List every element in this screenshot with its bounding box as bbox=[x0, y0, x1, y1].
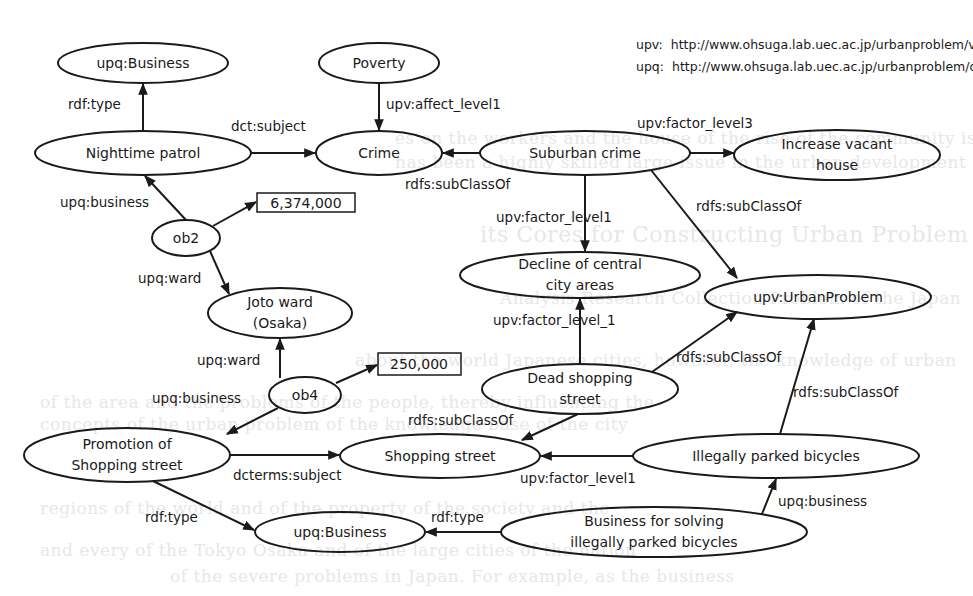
edge-label-solving-business: upq:business bbox=[778, 493, 867, 509]
namespace-upq: upq: http://www.ohsuga.lab.uec.ac.jp/urb… bbox=[636, 59, 973, 74]
label-line: Shopping street bbox=[71, 455, 182, 476]
edge-label-suburban-factor3: upv:factor_level3 bbox=[637, 115, 753, 131]
edge-label-suburban-subclass-up: rdfs:subClassOf bbox=[696, 198, 801, 214]
edge-label-dead-subclass-up: rdfs:subClassOf bbox=[676, 349, 781, 365]
edge-dead-shopping bbox=[522, 414, 578, 440]
edge-ob2-value bbox=[213, 202, 256, 226]
label-line: Business for solving bbox=[570, 511, 737, 532]
label-nighttime-patrol: Nighttime patrol bbox=[86, 143, 201, 164]
edge-label-ob4-business: upq:business bbox=[152, 390, 241, 406]
label-poverty: Poverty bbox=[353, 53, 406, 74]
edge-label-ob2-ward: upq:ward bbox=[138, 270, 201, 286]
edge-label-ob4-ward: upq:ward bbox=[197, 352, 260, 368]
label-line: illegally parked bicycles bbox=[570, 532, 737, 553]
namespace-prefix: upv: bbox=[636, 37, 663, 52]
edge-label-dead-subclass-shopping: rdfs:subClassOf bbox=[408, 412, 513, 428]
edge-label-np-type: rdf:type bbox=[68, 96, 121, 112]
label-line: Decline of central bbox=[518, 254, 642, 275]
edge-label-solving-type: rdf:type bbox=[431, 509, 484, 525]
label-business-top: upq:Business bbox=[96, 53, 189, 74]
label-line: (Osaka) bbox=[247, 313, 313, 334]
edge-ob2-ward bbox=[210, 251, 229, 294]
namespace-prefix: upq: bbox=[636, 59, 664, 74]
edge-ob2-business bbox=[145, 176, 186, 220]
edge-illegal-urban bbox=[780, 319, 814, 434]
label-line: city areas bbox=[518, 275, 642, 296]
label-dead-shopping: Dead shopping street bbox=[527, 368, 632, 410]
edge-label-illegal-factor1: upv:factor_level1 bbox=[520, 470, 636, 486]
label-shopping-street: Shopping street bbox=[384, 446, 495, 467]
label-illegally-parked: Illegally parked bicycles bbox=[692, 446, 860, 467]
label-ob4: ob4 bbox=[292, 385, 318, 406]
label-increase-vacant-house: Increase vacant house bbox=[781, 134, 892, 176]
label-promotion-shopping: Promotion of Shopping street bbox=[71, 434, 182, 476]
label-decline-central: Decline of central city areas bbox=[518, 254, 642, 296]
literal-ob4-value: 250,000 bbox=[390, 356, 448, 372]
namespace-uri: http://www.ohsuga.lab.uec.ac.jp/urbanpro… bbox=[672, 59, 973, 74]
label-crime: Crime bbox=[358, 143, 400, 164]
label-ob2: ob2 bbox=[173, 228, 199, 249]
edge-ob4-value bbox=[336, 365, 377, 383]
edge-label-promo-subject: dcterms:subject bbox=[233, 467, 342, 483]
edge-label-suburban-subclass-crime: rdfs:subClassOf bbox=[405, 176, 510, 192]
edge-solving-illegal bbox=[762, 479, 776, 514]
label-business-bottom: upq:Business bbox=[293, 522, 386, 543]
edge-label-np-subject: dct:subject bbox=[231, 118, 306, 134]
label-urban-problem: upv:UrbanProblem bbox=[753, 287, 883, 308]
label-line: Promotion of bbox=[71, 434, 182, 455]
edge-ob4-business bbox=[227, 408, 278, 434]
literal-ob2-value: 6,374,000 bbox=[270, 195, 341, 211]
edge-suburban-urban bbox=[651, 170, 737, 278]
label-business-solving: Business for solving illegally parked bi… bbox=[570, 511, 737, 553]
edge-label-dead-factor-1: upv:factor_level_1 bbox=[493, 312, 616, 328]
edge-label-suburban-factor1: upv:factor_level1 bbox=[496, 209, 612, 225]
namespace-uri: http://www.ohsuga.lab.uec.ac.jp/urbanpro… bbox=[671, 37, 973, 52]
label-suburban-crime: Suburban crime bbox=[529, 143, 641, 164]
label-line: Dead shopping bbox=[527, 368, 632, 389]
edge-label-poverty-affect: upv:affect_level1 bbox=[386, 96, 501, 112]
label-joto-ward: Joto ward (Osaka) bbox=[247, 292, 313, 334]
edge-label-ob2-business: upq:business bbox=[60, 194, 149, 210]
label-line: street bbox=[527, 389, 632, 410]
namespace-upv: upv: http://www.ohsuga.lab.uec.ac.jp/urb… bbox=[636, 37, 973, 52]
label-line: house bbox=[781, 155, 892, 176]
label-line: Increase vacant bbox=[781, 134, 892, 155]
label-line: Joto ward bbox=[247, 292, 313, 313]
edge-label-illegal-subclass-up: rdfs:subClassOf bbox=[793, 384, 898, 400]
edge-label-promo-type: rdf:type bbox=[145, 509, 198, 525]
